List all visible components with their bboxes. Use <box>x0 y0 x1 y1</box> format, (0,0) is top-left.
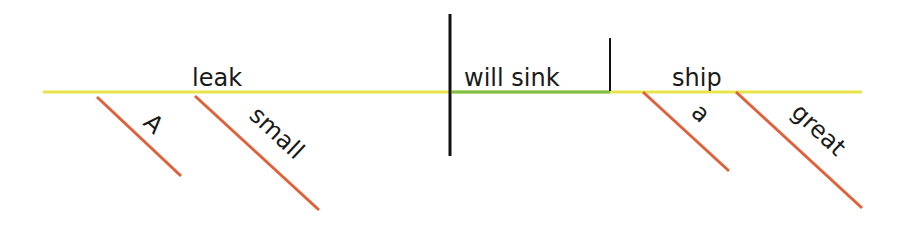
modifier-line-a <box>643 92 729 171</box>
modifier-A: A <box>138 108 170 140</box>
modifier-line-A <box>97 97 181 176</box>
subject-word: leak <box>192 64 242 92</box>
verb-word: will sink <box>464 64 560 92</box>
modifier-small: small <box>244 101 310 165</box>
object-word: ship <box>672 64 722 92</box>
modifier-great: great <box>786 98 852 162</box>
sentence-diagram: leak will sink ship A small a great <box>0 0 912 231</box>
modifier-a: a <box>686 98 716 129</box>
